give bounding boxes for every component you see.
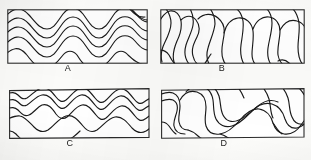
panel-a-drawing xyxy=(7,9,148,64)
panel-c-drawing xyxy=(8,87,151,140)
figure-root: A xyxy=(0,0,311,160)
panel-b-drawing xyxy=(160,9,305,64)
panel-d xyxy=(160,87,306,140)
panel-d-label: D xyxy=(214,138,234,148)
panel-b-label: B xyxy=(212,63,232,73)
panel-c-label: C xyxy=(60,138,80,148)
panel-a-label: A xyxy=(58,63,78,73)
panel-b xyxy=(160,9,305,64)
panel-d-drawing xyxy=(160,87,306,140)
panel-a xyxy=(7,9,148,64)
panel-c xyxy=(8,87,151,140)
panel-b-frame xyxy=(161,10,304,63)
